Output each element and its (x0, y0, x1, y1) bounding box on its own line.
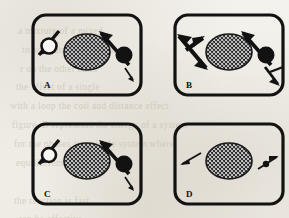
right-arrow-thin (125, 68, 134, 82)
right-small-dot (263, 161, 269, 167)
panel-a: A (28, 10, 146, 100)
right-filled-circle (116, 47, 133, 64)
panel-label-a: A (44, 80, 51, 90)
left-arrow-double (177, 34, 208, 70)
right-arrow-thin (125, 177, 134, 191)
center-ellipse (64, 34, 110, 70)
panel-label-d: D (186, 189, 193, 199)
left-open-circle (42, 148, 56, 162)
left-open-circle (42, 39, 57, 54)
right-filled-circle (116, 156, 133, 173)
panel-c: C (28, 119, 146, 209)
figure-panel-grid: A (0, 0, 289, 218)
right-filled-circle (258, 47, 275, 64)
center-ellipse (64, 143, 110, 179)
left-arrow-thin (180, 153, 201, 165)
center-ellipse (206, 143, 252, 179)
panel-label-b: B (186, 80, 192, 90)
panel-d: D (170, 119, 288, 209)
panel-b: B (170, 10, 288, 100)
panel-label-c: C (44, 189, 51, 199)
right-arrow-secondary (265, 67, 283, 86)
center-ellipse (206, 34, 252, 70)
